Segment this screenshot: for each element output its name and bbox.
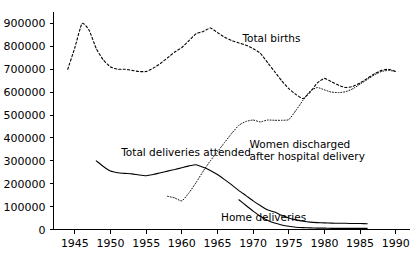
annotation-total-deliveries-attended: Total deliveries attended bbox=[120, 146, 251, 158]
x-tick-label: 1970 bbox=[239, 237, 267, 250]
x-tick-label: 1985 bbox=[346, 237, 374, 250]
x-tick-label: 1990 bbox=[382, 237, 410, 250]
x-axis-ticks: 1945195019551960196519701975198019851990 bbox=[61, 230, 410, 250]
series-total-births bbox=[68, 23, 396, 98]
y-tick-label: 900000 bbox=[4, 17, 46, 30]
x-tick-label: 1965 bbox=[203, 237, 231, 250]
y-tick-label: 300000 bbox=[4, 155, 46, 168]
annotation-line: Women discharged bbox=[250, 138, 351, 150]
y-tick-label: 800000 bbox=[4, 40, 46, 53]
chart-container: 0100000200000300000400000500000600000700… bbox=[0, 0, 419, 258]
y-tick-label: 100000 bbox=[4, 201, 46, 214]
annotation-home-deliveries: Home deliveries bbox=[221, 211, 306, 223]
x-tick-label: 1975 bbox=[275, 237, 303, 250]
x-axis: 1945195019551960196519701975198019851990 bbox=[54, 230, 411, 250]
x-tick-label: 1950 bbox=[97, 237, 125, 250]
x-tick-label: 1945 bbox=[61, 237, 89, 250]
y-axis: 0100000200000300000400000500000600000700… bbox=[4, 12, 54, 237]
annotation-total-births: Total births bbox=[241, 32, 300, 44]
annotation-line: Home deliveries bbox=[221, 211, 306, 223]
y-tick-label: 0 bbox=[39, 224, 46, 237]
x-tick-label: 1960 bbox=[168, 237, 196, 250]
data-series-group bbox=[68, 23, 396, 228]
x-tick-label: 1980 bbox=[310, 237, 338, 250]
series-annotations: Total birthsWomen dischargedafter hospit… bbox=[120, 32, 365, 223]
annotation-women-discharged: Women dischargedafter hospital delivery bbox=[250, 138, 365, 162]
y-tick-label: 500000 bbox=[4, 109, 46, 122]
line-chart: 0100000200000300000400000500000600000700… bbox=[0, 0, 419, 258]
y-tick-label: 600000 bbox=[4, 86, 46, 99]
annotation-line: Total births bbox=[241, 32, 300, 44]
y-tick-label: 700000 bbox=[4, 63, 46, 76]
y-axis-ticks: 0100000200000300000400000500000600000700… bbox=[4, 17, 54, 236]
x-tick-label: 1955 bbox=[132, 237, 160, 250]
y-tick-label: 400000 bbox=[4, 132, 46, 145]
annotation-line: after hospital delivery bbox=[250, 150, 365, 162]
y-tick-label: 200000 bbox=[4, 178, 46, 191]
annotation-line: Total deliveries attended bbox=[120, 146, 251, 158]
series-women-discharged-after-hospital-delivery bbox=[168, 70, 396, 201]
